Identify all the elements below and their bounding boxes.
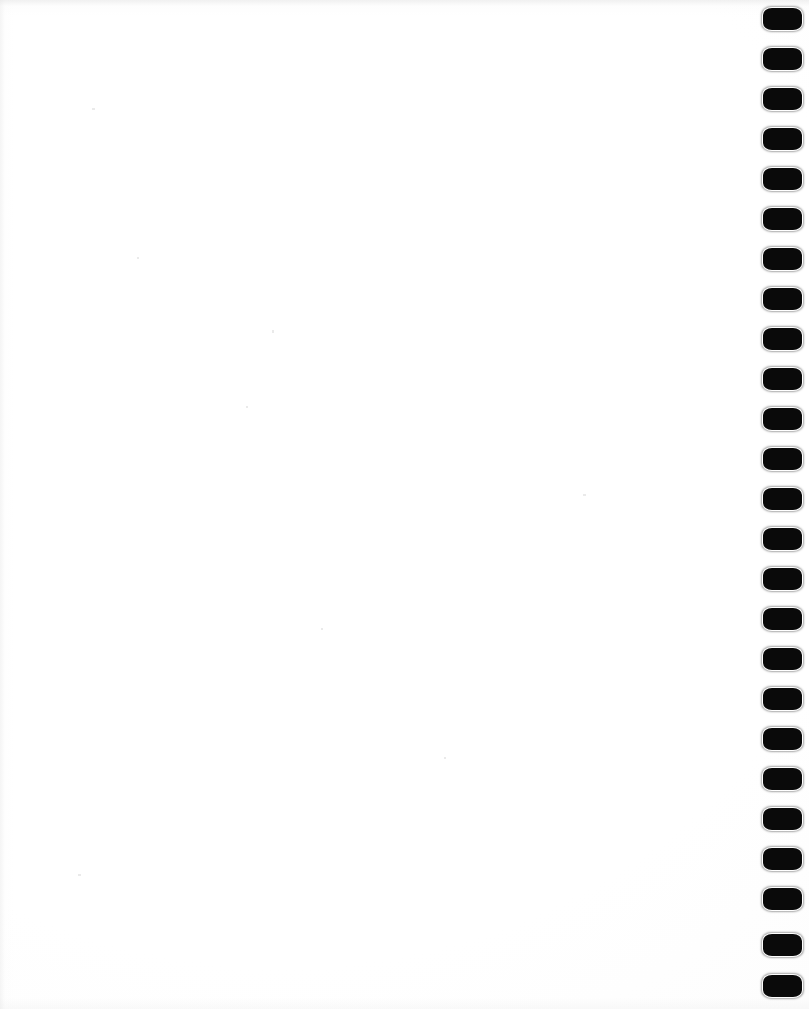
- binding-hole: [763, 768, 802, 790]
- binding-hole: [763, 608, 802, 630]
- binding-hole: [763, 48, 802, 70]
- binding-hole: [763, 934, 802, 956]
- binding-hole: [763, 168, 802, 190]
- binding-hole: [763, 448, 802, 470]
- page-surface: [0, 0, 809, 1009]
- binding-hole: [763, 528, 802, 550]
- binding-hole: [763, 8, 802, 30]
- binding-hole: [763, 648, 802, 670]
- binding-hole: [763, 808, 802, 830]
- binding-hole: [763, 328, 802, 350]
- binding-hole: [763, 975, 802, 997]
- scanned-page: [0, 0, 809, 1009]
- binding-hole: [763, 128, 802, 150]
- binding-hole: [763, 728, 802, 750]
- binding-hole: [763, 888, 802, 910]
- binding-hole: [763, 208, 802, 230]
- binding-hole: [763, 288, 802, 310]
- binding-hole-strip: [761, 0, 809, 1009]
- binding-hole: [763, 248, 802, 270]
- binding-hole: [763, 488, 802, 510]
- binding-hole: [763, 848, 802, 870]
- binding-hole: [763, 408, 802, 430]
- binding-hole: [763, 568, 802, 590]
- binding-hole: [763, 688, 802, 710]
- binding-hole: [763, 368, 802, 390]
- binding-hole: [763, 88, 802, 110]
